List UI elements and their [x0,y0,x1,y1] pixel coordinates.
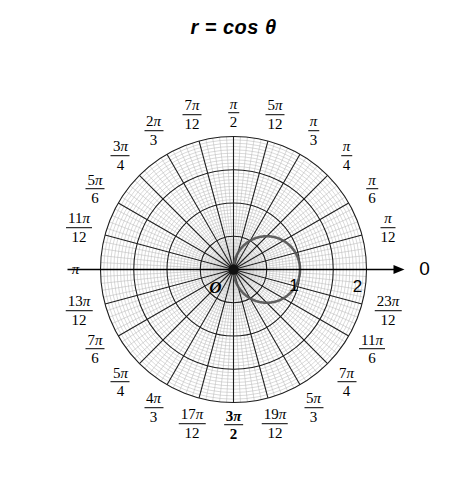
polar-chart-figure: r = cos θ π12π6π4π35π12π27π122π33π45π611… [0,0,467,503]
angle-label-1312: 13π12 [66,293,93,329]
origin-label: O [209,278,221,298]
angle-label-512: 5π12 [265,97,284,133]
angle-label-1712: 17π12 [179,406,206,442]
angle-label-34: 3π4 [111,139,130,175]
angle-label-4: π4 [341,139,353,175]
polar-axis-label: 0 [419,258,430,280]
angle-label-1912: 19π12 [262,406,289,442]
angle-label-54: 5π4 [111,365,130,401]
angle-label-: π [72,261,80,277]
angle-label-32: 3π2 [224,408,244,444]
r-tick-label-1: 1 [289,276,298,296]
angle-label-23: 2π3 [144,113,163,149]
angle-label-2312: 23π12 [375,293,402,329]
angle-label-74: 7π4 [337,365,356,401]
angle-label-43: 4π3 [144,390,163,426]
angle-label-712: 7π12 [183,97,202,133]
angle-label-56: 5π6 [85,172,104,208]
angle-label-3: π3 [308,113,320,149]
r-tick-label-2: 2 [353,277,362,297]
angle-label-76: 7π6 [85,332,104,368]
angle-label-6: π6 [366,172,378,208]
angle-label-2: π2 [228,96,240,132]
angle-label-53: 5π3 [304,390,323,426]
angle-label-12: π12 [381,210,396,246]
origin-hub [228,264,238,274]
angle-label-116: 11π6 [359,332,385,368]
angle-label-1112: 11π12 [66,210,92,246]
